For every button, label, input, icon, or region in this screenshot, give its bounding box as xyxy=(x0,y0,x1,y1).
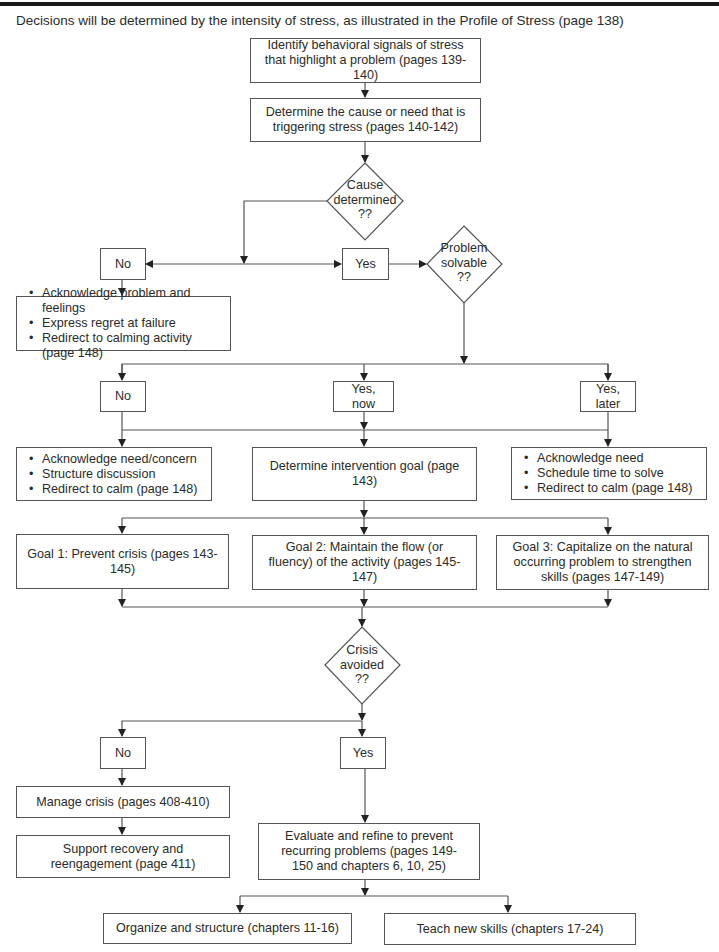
support-recovery-box: Support recovery and reengagement (page … xyxy=(16,835,230,878)
decision-solvable-line1: Problem xyxy=(424,241,504,256)
decision-crisis-line3: ?? xyxy=(322,672,402,687)
solvable-yes-now-box: Yes, now xyxy=(333,381,394,412)
organize-structure-box: Organize and structure (chapters 11-16) xyxy=(103,913,352,944)
intervention-goal-box: Determine intervention goal (page 143) xyxy=(252,447,477,501)
no-actions-box: Acknowledge need/concern Structure discu… xyxy=(16,447,212,501)
decision-solvable-line3: ?? xyxy=(424,270,504,285)
crisis-no-box: No xyxy=(100,737,146,769)
evaluate-refine-box: Evaluate and refine to prevent recurring… xyxy=(258,823,480,880)
list-item: Structure discussion xyxy=(29,467,197,482)
decision-crisis-label: Crisis avoided ?? xyxy=(322,643,402,687)
decision-cause-line1: Cause xyxy=(325,178,405,193)
goal3-box: Goal 3: Capitalize on the natural occurr… xyxy=(496,535,709,590)
manage-crisis-box: Manage crisis (pages 408-410) xyxy=(16,786,230,818)
cause-no-actions-list: Acknowledge problem and feelings Express… xyxy=(29,286,224,361)
list-item: Redirect to calming activity (page 148) xyxy=(29,331,224,361)
list-item: Redirect to calm (page 148) xyxy=(524,481,692,496)
crisis-yes-box: Yes xyxy=(340,737,386,769)
list-item: Acknowledge problem and feelings xyxy=(29,286,224,316)
solvable-yes-later-box: Yes, later xyxy=(580,381,636,412)
list-item: Acknowledge need xyxy=(524,451,692,466)
cause-no-box: No xyxy=(100,248,146,280)
decision-cause-label: Cause determined ?? xyxy=(325,178,405,222)
no-actions-list: Acknowledge need/concern Structure discu… xyxy=(29,452,197,497)
teach-skills-box: Teach new skills (chapters 17-24) xyxy=(384,913,636,945)
decision-crisis-line2: avoided xyxy=(322,658,402,673)
solvable-no-box: No xyxy=(100,381,146,412)
list-item: Redirect to calm (page 148) xyxy=(29,482,197,497)
decision-cause-line3: ?? xyxy=(325,207,405,222)
cause-no-actions-box: Acknowledge problem and feelings Express… xyxy=(16,296,231,351)
cause-yes-box: Yes xyxy=(342,248,389,280)
decision-crisis-line1: Crisis xyxy=(322,643,402,658)
decision-solvable-line2: solvable xyxy=(424,256,504,271)
goal1-box: Goal 1: Prevent crisis (pages 143-145) xyxy=(16,534,229,589)
list-item: Schedule time to solve xyxy=(524,466,692,481)
list-item: Acknowledge need/concern xyxy=(29,452,197,467)
identify-signals-box: Identify behavioral signals of stress th… xyxy=(250,38,481,83)
decision-cause-line2: determined xyxy=(325,193,405,208)
later-actions-box: Acknowledge need Schedule time to solve … xyxy=(511,447,707,500)
list-item: Express regret at failure xyxy=(29,316,224,331)
goal2-box: Goal 2: Maintain the flow (or fluency) o… xyxy=(252,535,477,590)
decision-solvable-label: Problem solvable ?? xyxy=(424,241,504,285)
later-actions-list: Acknowledge need Schedule time to solve … xyxy=(524,451,692,496)
determine-cause-box: Determine the cause or need that is trig… xyxy=(250,98,481,142)
